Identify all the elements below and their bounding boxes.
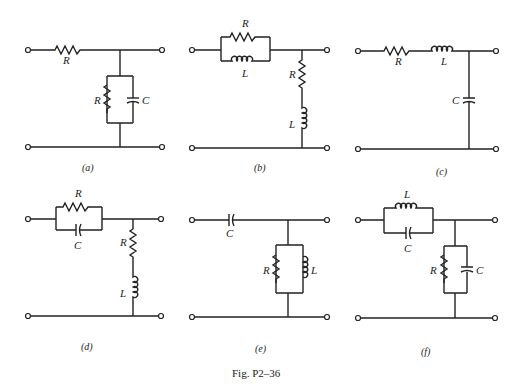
label-series-c: C xyxy=(74,239,82,251)
terminal xyxy=(159,314,164,319)
terminal xyxy=(190,218,195,223)
terminal xyxy=(325,315,330,320)
terminal xyxy=(26,145,31,150)
circuit-c: R L C (c) xyxy=(356,46,499,178)
label-shunt-r: R xyxy=(288,68,296,80)
label-series-c: C xyxy=(226,227,234,239)
terminal xyxy=(26,314,31,319)
label-shunt-l: L xyxy=(119,287,126,299)
terminal xyxy=(325,218,330,223)
label-shunt-r: R xyxy=(93,94,101,106)
label-shunt-r: R xyxy=(262,264,270,276)
terminal xyxy=(493,316,498,321)
subfigure-label: (f) xyxy=(421,346,431,358)
subfigure-label: (a) xyxy=(82,162,94,174)
label-series-c: C xyxy=(404,242,412,254)
terminal xyxy=(160,145,165,150)
label-shunt-c: C xyxy=(452,94,460,106)
subfigure-label: (c) xyxy=(436,166,448,178)
label-shunt-l: L xyxy=(288,118,295,130)
terminal xyxy=(356,218,361,223)
terminal xyxy=(493,218,498,223)
label-shunt-r: R xyxy=(119,236,127,248)
terminal xyxy=(159,217,164,222)
terminal xyxy=(494,49,499,54)
label-series-l: L xyxy=(241,67,248,79)
terminal xyxy=(190,48,195,53)
terminal xyxy=(190,146,195,151)
label-series-l: L xyxy=(440,55,447,67)
circuit-a: R R C (a) xyxy=(26,46,165,174)
terminal xyxy=(494,147,499,152)
label-series-r: R xyxy=(62,54,70,66)
terminal xyxy=(160,48,165,53)
terminal xyxy=(356,316,361,321)
label-series-r: R xyxy=(394,55,402,67)
terminal xyxy=(26,48,31,53)
subfigure-label: (d) xyxy=(81,341,93,353)
circuit-figure: R R C (a) R L R L (b) R L C xyxy=(0,0,520,391)
label-series-l: L xyxy=(403,188,410,200)
terminal xyxy=(356,147,361,152)
terminal xyxy=(325,48,330,53)
label-shunt-c: C xyxy=(142,94,150,106)
figure-caption: Fig. P2–36 xyxy=(232,367,281,379)
circuit-d: R C R L (d) xyxy=(26,187,164,353)
label-shunt-r: R xyxy=(429,264,437,276)
terminal xyxy=(26,217,31,222)
circuit-f: L C R C (f) xyxy=(356,188,498,358)
circuit-b: R L R L (b) xyxy=(190,17,330,174)
circuit-e: C R L (e) xyxy=(190,214,330,355)
terminal xyxy=(325,146,330,151)
terminal xyxy=(190,315,195,320)
label-series-r: R xyxy=(241,17,249,29)
terminal xyxy=(356,49,361,54)
subfigure-label: (e) xyxy=(255,343,267,355)
subfigure-label: (b) xyxy=(254,162,266,174)
label-series-r: R xyxy=(74,187,82,199)
label-shunt-c: C xyxy=(476,264,484,276)
label-shunt-l: L xyxy=(310,264,317,276)
